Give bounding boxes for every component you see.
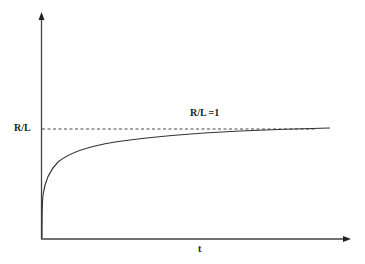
reference-line-label: R/L =1 <box>190 107 219 118</box>
plot-area <box>0 0 365 264</box>
y-axis-arrow-icon <box>39 12 45 20</box>
x-axis-arrow-icon <box>343 236 351 242</box>
y-value-label: R/L <box>14 122 31 133</box>
curve <box>42 128 330 238</box>
x-axis-label: t <box>198 243 201 254</box>
